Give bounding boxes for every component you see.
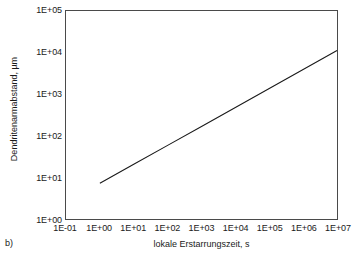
- figure-panel: 1E+001E+011E+021E+031E+041E+05 Dendriten…: [0, 0, 357, 256]
- series-line: [100, 51, 337, 184]
- panel-caption: b): [5, 238, 13, 248]
- y-axis-title: Dendritenarmabstand, µm: [9, 19, 19, 199]
- x-axis-title: lokale Erstarrungszeit, s: [65, 239, 338, 249]
- data-series-layer: [66, 11, 337, 219]
- y-axis-tick-label: 1E+05: [4, 6, 62, 15]
- plot-area: [65, 10, 338, 220]
- x-axis-tick-label: 1E+07: [315, 223, 357, 233]
- x-axis-tick-labels: 1E-011E+001E+011E+021E+031E+041E+051E+06…: [0, 223, 357, 237]
